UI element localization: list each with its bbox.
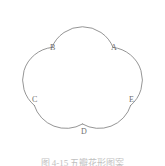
cusp-label-a: A <box>111 44 117 52</box>
five-petal-flower-diagram <box>0 0 165 166</box>
cusp-label-c: C <box>32 96 37 104</box>
cusp-label-d: D <box>81 128 87 136</box>
figure-container: A B C D E 图 4-15 五瓣花形图案 <box>0 0 165 166</box>
cusp-label-e: E <box>129 96 134 104</box>
figure-caption: 图 4-15 五瓣花形图案 <box>0 158 165 166</box>
cusp-label-b: B <box>50 44 55 52</box>
figure-caption-row: 图 4-15 五瓣花形图案 <box>0 158 165 166</box>
figure-background <box>0 0 165 166</box>
